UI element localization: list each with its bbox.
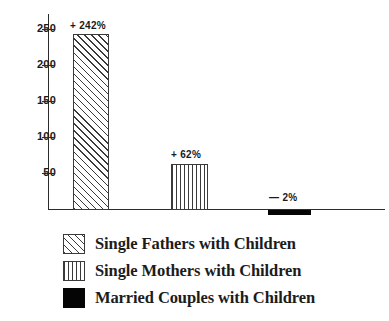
legend-swatch-diagonal-hatch-icon xyxy=(63,234,85,254)
legend-label-married-couples: Married Couples with Children xyxy=(95,288,315,308)
y-tick-200: 200 xyxy=(0,65,56,66)
bar-single-mothers xyxy=(171,164,208,210)
legend-item-single-fathers: Single Fathers with Children xyxy=(63,231,296,256)
legend-item-single-mothers: Single Mothers with Children xyxy=(63,258,301,283)
legend-swatch-vertical-stripes-icon xyxy=(63,261,85,281)
bar-label-single-mothers: + 62% xyxy=(171,149,201,160)
y-tick-mark-50 xyxy=(42,173,55,174)
legend-label-single-fathers: Single Fathers with Children xyxy=(95,234,296,254)
bar-married-couples xyxy=(268,210,311,215)
legend-label-single-mothers: Single Mothers with Children xyxy=(95,261,301,281)
legend-item-married-couples: Married Couples with Children xyxy=(63,285,315,310)
y-axis-line xyxy=(48,14,49,210)
plot-area: 250 200 150 100 50 + 242% + 62% — 2% xyxy=(0,0,389,225)
chart-legend: Single Fathers with Children Single Moth… xyxy=(0,228,389,321)
y-tick-150: 150 xyxy=(0,101,56,102)
bar-label-single-fathers: + 242% xyxy=(70,20,106,31)
y-tick-100: 100 xyxy=(0,137,56,138)
legend-swatch-solid-black-icon xyxy=(63,288,85,308)
y-tick-mark-100 xyxy=(42,137,55,138)
y-tick-mark-250 xyxy=(42,29,55,30)
y-tick-50: 50 xyxy=(0,173,56,174)
y-tick-250: 250 xyxy=(0,29,56,30)
bar-chart-figure: 250 200 150 100 50 + 242% + 62% — 2% xyxy=(0,0,389,321)
bar-label-married-couples: — 2% xyxy=(269,192,297,203)
bar-single-fathers xyxy=(73,34,109,210)
y-tick-mark-200 xyxy=(42,65,55,66)
y-tick-mark-150 xyxy=(42,101,55,102)
